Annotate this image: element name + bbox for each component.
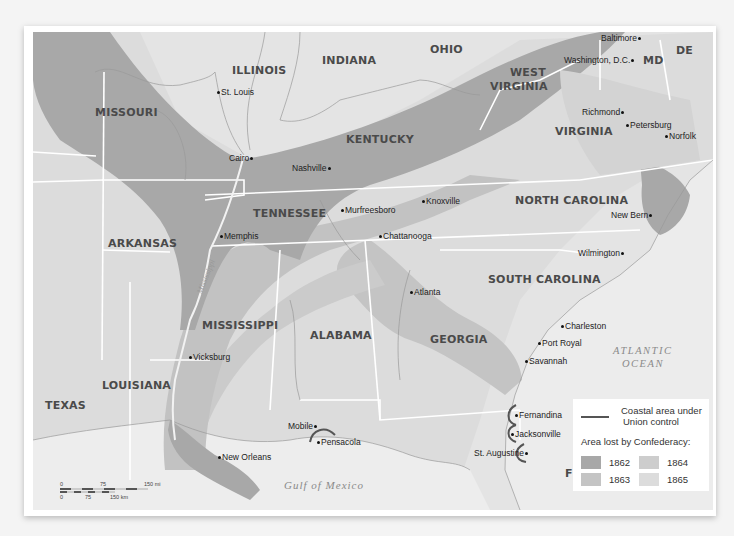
state-label-north-carolina: NORTH CAROLINA xyxy=(515,195,628,206)
city-knoxville: Knoxville xyxy=(421,197,460,206)
scale-mi-150: 150 mi xyxy=(144,481,161,487)
legend-swatch-1863 xyxy=(581,473,601,486)
state-label-virginia: VIRGINIA xyxy=(555,126,613,137)
city-dot xyxy=(515,414,518,417)
city-dot xyxy=(525,452,528,455)
city-new-orleans: New Orleans xyxy=(217,453,271,462)
legend-label-1863: 1863 xyxy=(609,474,630,485)
state-label-de: DE xyxy=(676,45,693,56)
scale-mi-0: 0 xyxy=(60,481,63,487)
state-label-mississippi: MISSISSIPPI xyxy=(202,320,278,331)
city-pensacola: Pensacola xyxy=(316,438,361,447)
state-label-west: WEST xyxy=(510,67,546,78)
capital-star-icon xyxy=(631,59,634,62)
city-norfolk: Norfolk xyxy=(664,132,696,141)
legend-swatch-1862 xyxy=(581,456,601,469)
city-dot xyxy=(410,291,413,294)
water-label-ocean: OCEAN xyxy=(622,359,664,370)
union-control-line-swatch xyxy=(581,416,609,418)
city-dot xyxy=(314,425,317,428)
city-dot xyxy=(328,167,331,170)
city-vicksburg: Vicksburg xyxy=(188,353,230,362)
city-atlanta: Atlanta xyxy=(409,288,440,297)
city-wilmington: Wilmington xyxy=(578,249,625,258)
city-petersburg: Petersburg xyxy=(625,121,672,130)
city-dot xyxy=(422,200,425,203)
state-label-tennessee: TENNESSEE xyxy=(253,208,326,219)
capital-star-icon xyxy=(621,111,624,114)
scale-km-0: 0 xyxy=(60,494,63,500)
city-st-augustine: St. Augustine xyxy=(474,449,529,458)
state-label-kentucky: KENTUCKY xyxy=(346,134,414,145)
state-label-louisiana: LOUISIANA xyxy=(102,380,171,391)
city-dot xyxy=(638,37,641,40)
city-savannah: Savannah xyxy=(524,357,567,366)
city-chattanooga: Chattanooga xyxy=(378,232,432,241)
state-label-illinois: ILLINOIS xyxy=(232,65,286,76)
city-st-louis: St. Louis xyxy=(216,88,254,97)
city-dot xyxy=(511,433,514,436)
scale-km-75: 75 xyxy=(85,494,91,500)
water-label-gulf-of-mexico: Gulf of Mexico xyxy=(284,480,364,491)
legend-swatch-1864 xyxy=(639,456,659,469)
state-label-indiana: INDIANA xyxy=(322,55,376,66)
city-dot xyxy=(189,356,192,359)
city-dot xyxy=(218,456,221,459)
state-label-west-virginia: VIRGINIA xyxy=(490,81,548,92)
legend-label-1865: 1865 xyxy=(667,474,688,485)
city-port-royal: Port Royal xyxy=(537,339,582,348)
city-new-bern: New Bern xyxy=(611,211,653,220)
scale-mi-75: 75 xyxy=(100,481,106,487)
water-label-atlantic: ATLANTIC xyxy=(613,346,672,357)
city-nashville: Nashville xyxy=(292,164,332,173)
city-jacksonville: Jacksonville xyxy=(510,430,561,439)
city-dot xyxy=(525,360,528,363)
scale-km-bar xyxy=(60,491,115,493)
city-murfreesboro: Murfreesboro xyxy=(340,206,396,215)
city-fernandina: Fernandina xyxy=(514,411,562,420)
city-dot xyxy=(220,235,223,238)
city-dot xyxy=(649,214,652,217)
state-label-ohio: OHIO xyxy=(430,44,463,55)
state-label-south-carolina: SOUTH CAROLINA xyxy=(488,274,601,285)
state-label-georgia: GEORGIA xyxy=(430,334,487,345)
legend-label-1864: 1864 xyxy=(667,457,688,468)
map-legend: Coastal area under Union control Area lo… xyxy=(573,399,709,491)
scale-mi-bar xyxy=(60,488,148,490)
city-dot xyxy=(621,252,624,255)
city-charleston: Charleston xyxy=(560,322,606,331)
city-dot xyxy=(217,91,220,94)
city-dot xyxy=(317,441,320,444)
state-label-alabama: ALABAMA xyxy=(310,330,372,341)
legend-header: Area lost by Confederacy: xyxy=(581,436,690,447)
city-dot xyxy=(379,235,382,238)
state-label-texas: TEXAS xyxy=(45,400,86,411)
state-label-md: MD xyxy=(643,55,663,66)
state-label-arkansas: ARKANSAS xyxy=(108,238,177,249)
city-dot xyxy=(341,209,344,212)
legend-swatch-1865 xyxy=(639,473,659,486)
legend-label-1862: 1862 xyxy=(609,457,630,468)
city-baltimore: Baltimore xyxy=(601,34,642,43)
city-dot xyxy=(626,124,629,127)
city-memphis: Memphis xyxy=(219,232,258,241)
city-dot xyxy=(538,342,541,345)
state-label-missouri: MISSOURI xyxy=(95,107,158,118)
city-mobile: Mobile xyxy=(288,422,318,431)
city-dot xyxy=(665,135,668,138)
city-cairo: Cairo xyxy=(229,154,254,163)
city-richmond: Richmond xyxy=(582,108,625,117)
city-washington-dc: Washington, D.C. xyxy=(564,56,635,65)
city-dot xyxy=(250,157,253,160)
union-control-label: Coastal area under Union control xyxy=(621,405,702,427)
scale-km-150: 150 km xyxy=(110,494,128,500)
city-dot xyxy=(561,325,564,328)
